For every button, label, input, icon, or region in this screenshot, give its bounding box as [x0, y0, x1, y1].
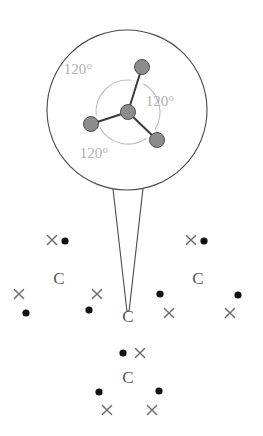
atom-lower-right: [150, 133, 165, 148]
lattice-carbon-bottom: C: [122, 368, 133, 387]
electron-dot: [85, 306, 92, 313]
electron-dot: [200, 237, 207, 244]
electron-cross: [164, 308, 173, 317]
lattice-carbon-top-left: C: [53, 269, 64, 288]
electron-cross: [147, 405, 156, 414]
angle-label-bottom: 120°: [80, 145, 109, 161]
angle-label-right: 120°: [146, 93, 175, 109]
diagram-canvas: 120°120°120° CCCC: [0, 0, 263, 436]
callout-tail: [113, 188, 143, 311]
electron-dot: [155, 387, 162, 394]
electron-dot: [119, 349, 126, 356]
atom-left: [84, 117, 99, 132]
lattice-carbon-center: C: [122, 307, 133, 326]
electron-cross: [47, 235, 56, 244]
electron-cross: [186, 235, 195, 244]
electron-dot: [156, 290, 163, 297]
electron-dot: [22, 309, 29, 316]
figure-container: 120°120°120° CCCC: [0, 0, 263, 436]
electron-dot: [61, 237, 68, 244]
central-atom: [121, 105, 136, 120]
electron-cross: [102, 405, 111, 414]
electron-dot: [95, 388, 102, 395]
electron-cross: [14, 289, 23, 298]
angle-label-upper-left: 120°: [64, 61, 93, 77]
callout-tail-group: [113, 188, 143, 311]
electron-cross: [225, 308, 234, 317]
electron-cross: [135, 348, 144, 357]
lattice-carbon-top-right: C: [192, 269, 203, 288]
electron-cross: [92, 289, 101, 298]
electron-dot: [234, 291, 241, 298]
atom-top: [135, 60, 150, 75]
